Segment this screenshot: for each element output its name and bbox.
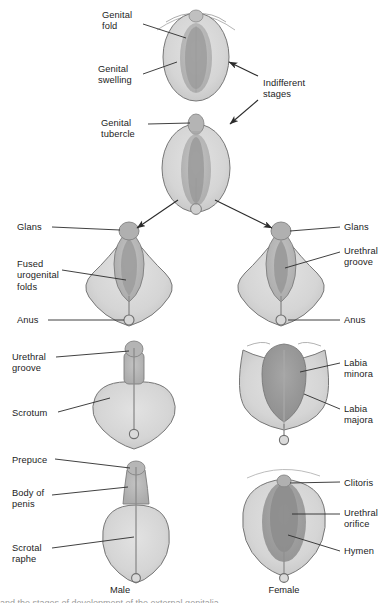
label-indifferent-stages: Indifferent stages [263,78,305,101]
indifferent-stage-arrows [229,62,258,124]
stage-male-1 [86,222,172,326]
partial-figure-caption: and the stages of development of the ext… [0,598,390,603]
stage-female-1 [238,222,324,326]
label-urethral-orifice: Urethral orifice [344,508,378,531]
genitalia-development-illustration [0,0,390,603]
stage-female-2 [239,342,328,444]
stage-indifferent-2 [162,114,230,214]
label-scrotal-raphe: Scrotal raphe [12,543,42,566]
label-urethral-groove-male: Urethral groove [12,352,46,375]
label-genital-tubercle: Genital tubercle [101,118,135,141]
label-hymen: Hymen [344,546,374,557]
stage-indifferent-1 [157,10,235,101]
label-clitoris: Clitoris [344,478,373,489]
stage-female-3 [243,469,326,582]
label-anus-male: Anus [17,315,39,326]
label-fused-urogenital-folds: Fused urogenital folds [17,259,59,293]
label-anus-female: Anus [344,315,366,326]
stage-male-3 [103,461,170,583]
label-body-of-penis: Body of penis [12,488,44,511]
caption-male: Male [95,585,145,596]
label-labia-minora: Labia minora [344,358,373,381]
label-scrotum: Scrotum [12,408,47,419]
label-genital-swelling: Genital swelling [98,64,132,87]
label-glans-female: Glans [344,222,369,233]
label-urethral-groove-female: Urethral groove [344,246,378,269]
label-labia-majora: Labia majora [344,404,373,427]
figure-root: Genital fold Genital swelling Genital tu… [0,0,390,603]
label-glans-male: Glans [17,222,42,233]
label-prepuce: Prepuce [12,455,47,466]
stage-male-2 [93,341,175,449]
caption-female: Female [259,585,309,596]
label-genital-fold: Genital fold [102,10,132,33]
